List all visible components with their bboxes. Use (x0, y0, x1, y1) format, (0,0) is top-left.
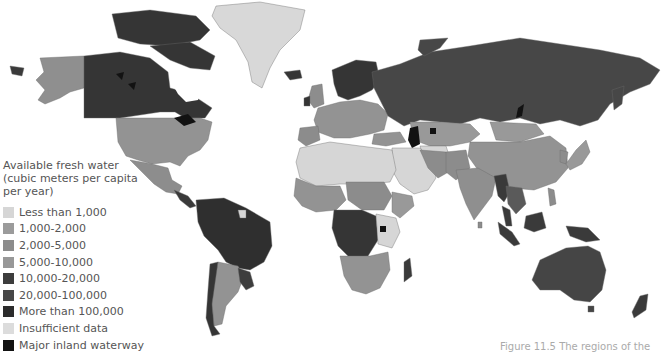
legend-label: 2,000-5,000 (19, 239, 86, 252)
legend-swatch (3, 240, 14, 251)
region-central-america (174, 190, 196, 208)
region-horn-africa (392, 192, 414, 218)
legend-label: More than 100,000 (19, 305, 124, 318)
region-alaska (36, 56, 84, 104)
region-australia (532, 246, 606, 302)
region-kamchatka (612, 86, 624, 110)
region-aral (430, 128, 436, 134)
legend-swatch (3, 290, 14, 301)
legend-label: 20,000-100,000 (19, 289, 107, 302)
region-iberia (298, 126, 320, 146)
region-tasmania (588, 306, 594, 312)
region-kazakhstan (410, 122, 480, 146)
legend-swatch (3, 223, 14, 234)
legend-item-1000-2000: 1,000-2,000 (3, 221, 173, 238)
region-sri-lanka (478, 222, 482, 228)
legend-label: 10,000-20,000 (19, 272, 100, 285)
legend-label: Insufficient data (19, 322, 108, 335)
legend-swatch (3, 340, 14, 351)
legend-item-less-than-1000: Less than 1,000 (3, 204, 173, 221)
lake-victoria (380, 226, 386, 232)
region-sudan (346, 182, 392, 210)
legend-swatch (3, 323, 14, 334)
legend-title: Available fresh water (cubic meters per … (3, 159, 143, 198)
region-philippines (548, 188, 556, 206)
region-turkey (372, 132, 406, 146)
legend-item-insufficient-data: Insufficient data (3, 320, 173, 337)
region-japan (566, 140, 590, 170)
legend-item-20000-100000: 20,000-100,000 (3, 287, 173, 304)
region-india (456, 168, 496, 220)
map-legend: Available fresh water (cubic meters per … (3, 159, 173, 353)
legend-item-10000-20000: 10,000-20,000 (3, 270, 173, 287)
region-aleutian (10, 66, 24, 76)
legend-label: Less than 1,000 (19, 206, 107, 219)
region-new-guinea (566, 226, 600, 242)
legend-label: 1,000-2,000 (19, 222, 86, 235)
figure-caption: Figure 11.5 The regions of the (500, 341, 650, 352)
region-south-america-north (196, 198, 272, 270)
region-north-africa (296, 142, 396, 186)
region-russia (372, 38, 660, 126)
region-new-zealand (632, 294, 648, 318)
region-caspian (408, 126, 420, 148)
region-europe (314, 100, 388, 138)
legend-label: 5,000-10,000 (19, 256, 93, 269)
region-paraguay-uruguay (238, 268, 254, 290)
region-madagascar (404, 258, 412, 282)
region-east-africa (376, 214, 400, 248)
legend-swatch (3, 306, 14, 317)
region-malaysia (502, 206, 512, 226)
region-uk (308, 84, 324, 108)
legend-item-2000-5000: 2,000-5,000 (3, 237, 173, 254)
legend-item-major-inland-waterway: Major inland waterway (3, 337, 173, 353)
legend-swatch (3, 273, 14, 284)
region-borneo (524, 212, 546, 232)
legend-swatch (3, 257, 14, 268)
legend-label: Major inland waterway (19, 339, 144, 352)
legend-item-more-than-100000: More than 100,000 (3, 304, 173, 321)
region-iceland (284, 70, 302, 80)
region-southern-africa (340, 252, 390, 294)
region-central-africa (332, 210, 378, 258)
legend-swatch (3, 207, 14, 218)
legend-item-5000-10000: 5,000-10,000 (3, 254, 173, 271)
region-ireland (304, 96, 310, 106)
region-canada-arctic (112, 10, 210, 46)
